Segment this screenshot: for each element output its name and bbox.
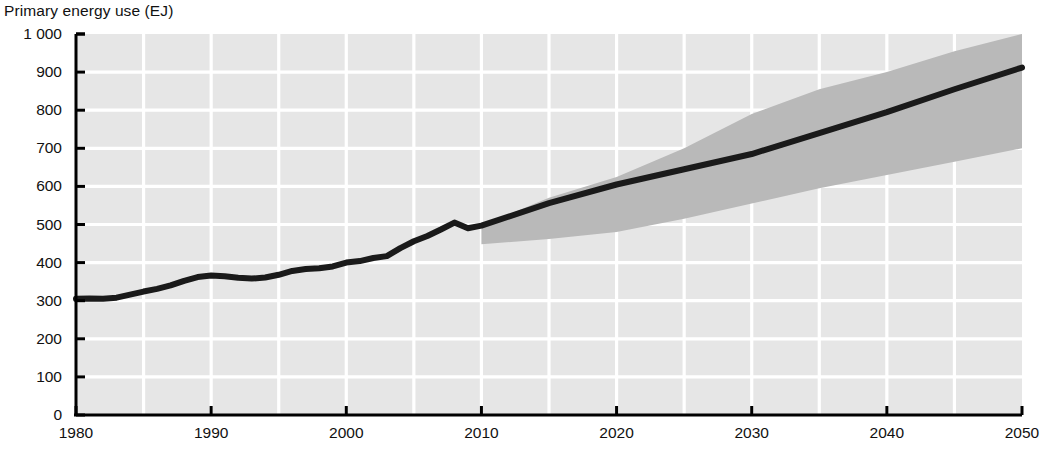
y-axis-tick-label: 500 xyxy=(0,217,62,233)
y-axis-tick-label: 800 xyxy=(0,102,62,118)
y-axis-tick-label: 600 xyxy=(0,178,62,194)
y-axis-tick-label: 900 xyxy=(0,64,62,80)
y-axis-tick-label: 400 xyxy=(0,255,62,271)
x-axis-tick-label: 2020 xyxy=(582,425,652,441)
x-axis-tick-label: 1990 xyxy=(176,425,246,441)
y-axis-tick-label: 0 xyxy=(0,407,62,423)
y-axis-tick-label: 1 000 xyxy=(0,26,62,42)
x-axis-tick-label: 2050 xyxy=(987,425,1044,441)
x-axis-tick-label: 1980 xyxy=(41,425,111,441)
y-axis-tick-label: 700 xyxy=(0,140,62,156)
x-axis-tick-label: 2000 xyxy=(311,425,381,441)
x-axis-tick-label: 2030 xyxy=(717,425,787,441)
y-axis-tick-label: 200 xyxy=(0,331,62,347)
x-axis-tick-label: 2040 xyxy=(852,425,922,441)
y-axis-tick-label: 100 xyxy=(0,369,62,385)
x-axis-tick-label: 2010 xyxy=(446,425,516,441)
y-axis-tick-label: 300 xyxy=(0,293,62,309)
